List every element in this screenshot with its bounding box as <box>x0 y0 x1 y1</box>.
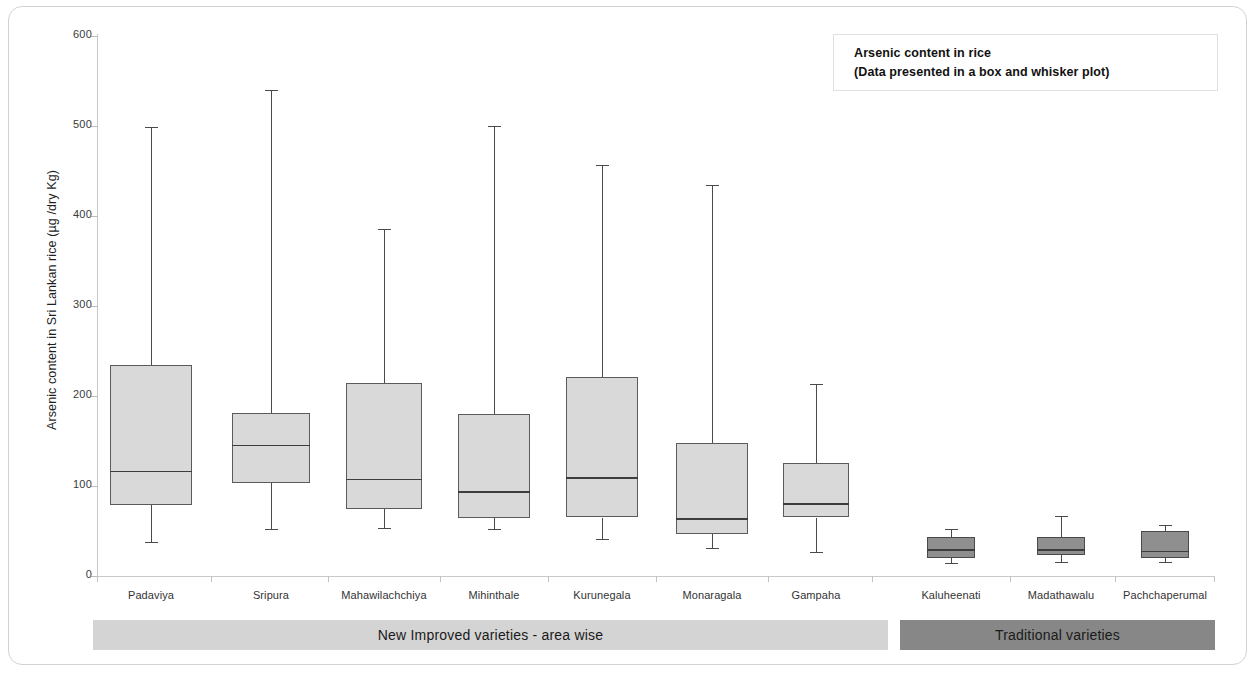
x-tick-mark <box>872 576 873 582</box>
lower-whisker-line <box>816 518 817 552</box>
lower-whisker-line <box>271 483 272 529</box>
upper-whisker-cap <box>596 165 609 166</box>
y-tick-label: 600 <box>56 28 92 40</box>
lower-whisker-cap <box>488 529 501 530</box>
upper-whisker-cap <box>378 229 391 230</box>
legend-title: Arsenic content in rice <box>854 44 1217 63</box>
legend-subtitle: (Data presented in a box and whisker plo… <box>854 63 1217 82</box>
x-tick-mark <box>211 576 212 582</box>
upper-whisker-line <box>384 229 385 384</box>
upper-whisker-line <box>1061 516 1062 538</box>
median-line <box>458 491 530 493</box>
median-line <box>232 445 310 447</box>
lower-whisker-cap <box>265 529 278 530</box>
y-tick-label: 200 <box>56 388 92 400</box>
upper-whisker-line <box>816 384 817 462</box>
x-tick-mark <box>1214 576 1215 582</box>
category-label-pachchaperumal: Pachchaperumal <box>1085 589 1245 601</box>
box-rect <box>458 414 530 518</box>
y-tick-mark <box>91 126 98 127</box>
y-tick-mark <box>91 306 98 307</box>
box-rect <box>110 365 192 505</box>
lower-whisker-cap <box>596 539 609 540</box>
group-bar-dark: Traditional varieties <box>900 620 1215 650</box>
median-line <box>1037 549 1085 551</box>
upper-whisker-cap <box>488 126 501 127</box>
y-tick-label: 500 <box>56 118 92 130</box>
box-plot-figure: 6005004003002001000 PadaviyaSripuraMahaw… <box>0 0 1257 675</box>
legend-box: Arsenic content in rice (Data presented … <box>833 34 1218 91</box>
x-tick-mark <box>768 576 769 582</box>
lower-whisker-cap <box>145 542 158 543</box>
lower-whisker-line <box>602 518 603 540</box>
y-tick-label: 300 <box>56 298 92 310</box>
lower-whisker-cap <box>810 552 823 553</box>
lower-whisker-cap <box>1159 562 1172 563</box>
y-tick-mark <box>91 396 98 397</box>
median-line <box>676 518 748 520</box>
upper-whisker-cap <box>265 90 278 91</box>
y-tick-mark <box>91 36 98 37</box>
upper-whisker-line <box>271 90 272 413</box>
x-tick-mark <box>656 576 657 582</box>
x-tick-mark <box>440 576 441 582</box>
upper-whisker-cap <box>945 529 958 530</box>
group-bar-light: New Improved varieties - area wise <box>93 620 888 650</box>
y-tick-mark <box>91 216 98 217</box>
lower-whisker-line <box>151 505 152 542</box>
upper-whisker-line <box>712 185 713 443</box>
upper-whisker-cap <box>1159 525 1172 526</box>
x-tick-mark <box>1010 576 1011 582</box>
box-rect <box>1141 531 1189 558</box>
x-tick-mark <box>328 576 329 582</box>
y-tick-label: 100 <box>56 478 92 490</box>
upper-whisker-cap <box>145 127 158 128</box>
lower-whisker-line <box>494 518 495 529</box>
lower-whisker-cap <box>1055 562 1068 563</box>
box-rect <box>232 413 310 483</box>
upper-whisker-line <box>151 127 152 366</box>
lower-whisker-cap <box>945 563 958 564</box>
lower-whisker-line <box>384 509 385 528</box>
lower-whisker-cap <box>378 528 391 529</box>
box-rect <box>927 537 975 558</box>
x-tick-mark <box>97 576 98 582</box>
upper-whisker-cap <box>706 185 719 186</box>
y-tick-label: 0 <box>56 568 92 580</box>
upper-whisker-cap <box>1055 516 1068 517</box>
y-tick-label: 400 <box>56 208 92 220</box>
box-rect <box>566 377 638 517</box>
median-line <box>566 477 638 479</box>
upper-whisker-line <box>602 165 603 377</box>
box-rect <box>676 443 748 534</box>
box-rect <box>1037 537 1085 555</box>
upper-whisker-line <box>951 529 952 537</box>
lower-whisker-cap <box>706 548 719 549</box>
box-rect <box>346 383 422 509</box>
x-tick-mark <box>1115 576 1116 582</box>
upper-whisker-line <box>494 126 495 414</box>
lower-whisker-line <box>712 534 713 548</box>
median-line <box>110 471 192 473</box>
median-line <box>346 479 422 481</box>
plot-area: 6005004003002001000 PadaviyaSripuraMahaw… <box>0 0 1257 675</box>
y-tick-mark <box>91 486 98 487</box>
y-axis-title: Arsenic content in Sri Lankan rice (µg /… <box>45 65 59 535</box>
x-tick-mark <box>548 576 549 582</box>
median-line <box>1141 551 1189 553</box>
upper-whisker-cap <box>810 384 823 385</box>
median-line <box>783 503 849 505</box>
box-rect <box>783 463 849 518</box>
median-line <box>927 549 975 551</box>
